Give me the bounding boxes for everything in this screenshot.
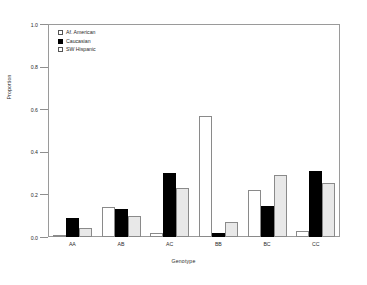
legend-swatch-icon (58, 39, 63, 44)
y-axis-tick: 1.0 (40, 24, 48, 25)
bar-group-bc (243, 24, 292, 237)
legend-swatch-icon (58, 30, 63, 35)
y-axis-tick: 0.6 (40, 109, 48, 110)
y-axis-title: Proportion (6, 42, 12, 132)
bar (199, 116, 212, 237)
bar (212, 233, 225, 237)
bar (261, 206, 274, 237)
x-axis-tick-label: BC (243, 241, 292, 253)
bar (296, 231, 309, 237)
bar-group-aa (48, 24, 97, 237)
bar (79, 228, 92, 237)
bar-chart-figure: 0.00.20.40.60.81.0 Proportion AAABACBBBC… (0, 0, 367, 285)
y-axis-tick: 0.0 (40, 237, 48, 238)
x-axis-title: Genotype (0, 258, 367, 264)
legend-item: Caucasian (58, 38, 96, 45)
bar (128, 216, 141, 237)
bar (53, 235, 66, 237)
y-axis-tick-label: 0.6 (31, 107, 38, 113)
y-axis-tick: 0.8 (40, 67, 48, 68)
bar (115, 209, 128, 237)
bar (163, 173, 176, 237)
x-axis-tick-label: AC (145, 241, 194, 253)
legend: Af. AmericanCaucasianSW Hispanic (56, 28, 99, 55)
bar-group-ab (97, 24, 146, 237)
x-axis-tick-label: AA (48, 241, 97, 253)
legend-item: SW Hispanic (58, 46, 96, 53)
bar (309, 171, 322, 237)
y-axis-tick: 0.2 (40, 194, 48, 195)
y-axis-tick-label: 0.0 (31, 235, 38, 241)
bar-group-ac (145, 24, 194, 237)
y-axis-tick: 0.4 (40, 152, 48, 153)
bars-layer (48, 24, 340, 237)
legend-label: SW Hispanic (66, 46, 96, 53)
x-axis-tick-label: BB (194, 241, 243, 253)
bar (225, 222, 238, 237)
x-axis: AAABACBBBCCC (48, 241, 340, 253)
y-axis-tick-label: 1.0 (31, 22, 38, 28)
bar (150, 233, 163, 237)
x-axis-tick-label: CC (291, 241, 340, 253)
y-axis-tick-label: 0.8 (31, 64, 38, 70)
bar (322, 183, 335, 237)
bar (248, 190, 261, 237)
x-axis-tick-label: AB (97, 241, 146, 253)
y-axis-tick-label: 0.4 (31, 149, 38, 155)
bar (176, 188, 189, 237)
bar (66, 218, 79, 237)
legend-item: Af. American (58, 29, 96, 36)
legend-swatch-icon (58, 47, 63, 52)
bar-group-bb (194, 24, 243, 237)
legend-label: Af. American (66, 29, 95, 36)
bar-group-cc (291, 24, 340, 237)
bar (274, 175, 287, 237)
legend-label: Caucasian (66, 38, 91, 45)
bar (102, 207, 115, 237)
y-axis-tick-label: 0.2 (31, 192, 38, 198)
